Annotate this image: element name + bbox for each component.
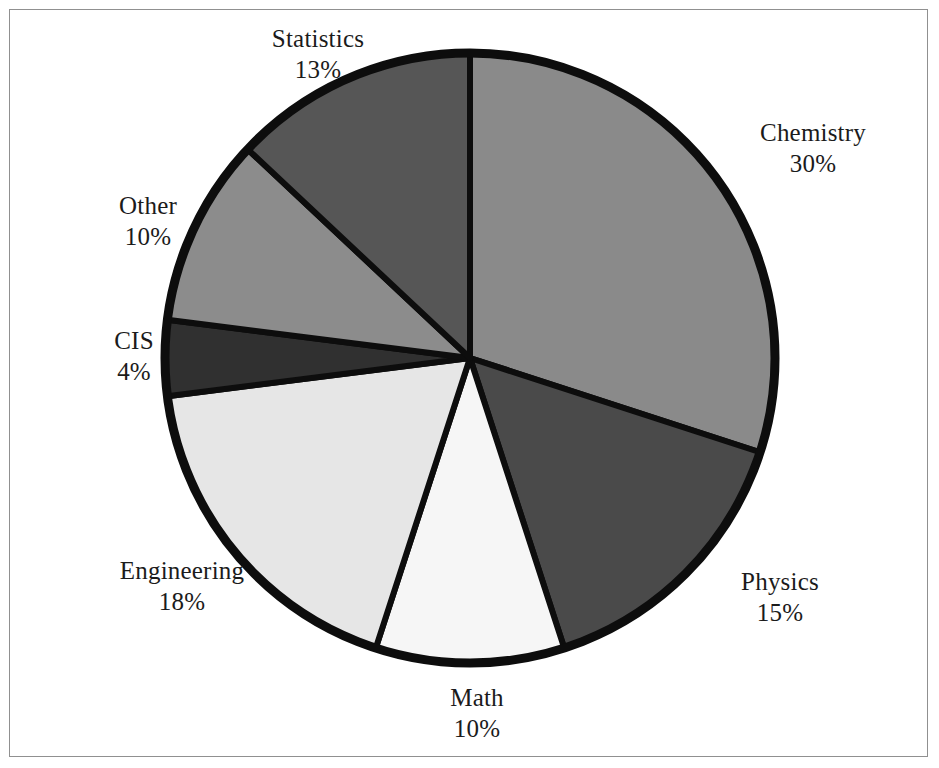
slice-label-other-value: 10% (83, 222, 213, 253)
slice-label-physics-name: Physics (700, 567, 860, 598)
slice-label-engineering-name: Engineering (72, 556, 292, 587)
slice-label-other: Other 10% (83, 191, 213, 252)
slice-label-chemistry-value: 30% (718, 149, 908, 180)
slice-label-engineering: Engineering 18% (72, 556, 292, 617)
slice-label-cis-value: 4% (79, 357, 189, 388)
slice-label-math-value: 10% (392, 714, 562, 745)
slice-label-physics: Physics 15% (700, 567, 860, 628)
pie-chart-page: Statistics 13% Chemistry 30% Other 10% C… (0, 0, 939, 768)
slice-label-other-name: Other (83, 191, 213, 222)
slice-label-engineering-value: 18% (72, 587, 292, 618)
slice-label-statistics-value: 13% (228, 55, 408, 86)
pie-chart: Statistics 13% Chemistry 30% Other 10% C… (0, 0, 939, 768)
slice-label-math: Math 10% (392, 683, 562, 744)
slice-label-cis-name: CIS (79, 326, 189, 357)
slice-label-physics-value: 15% (700, 598, 860, 629)
slice-label-cis: CIS 4% (79, 326, 189, 387)
slice-label-chemistry: Chemistry 30% (718, 118, 908, 179)
slice-label-statistics-name: Statistics (228, 24, 408, 55)
slice-label-math-name: Math (392, 683, 562, 714)
slice-label-chemistry-name: Chemistry (718, 118, 908, 149)
slice-label-statistics: Statistics 13% (228, 24, 408, 85)
